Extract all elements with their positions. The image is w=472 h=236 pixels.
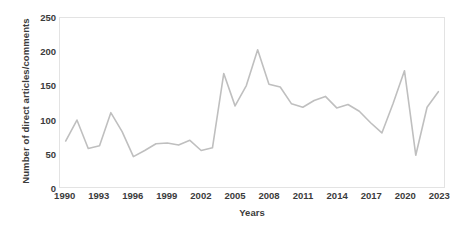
x-tick-label: 1999 <box>156 190 177 201</box>
data-line-series <box>66 50 439 157</box>
x-tick-label: 2011 <box>293 190 314 201</box>
x-tick-label: 2017 <box>361 190 382 201</box>
x-tick-label: 1990 <box>54 190 75 201</box>
y-tick-label: 250 <box>40 12 56 23</box>
chart-figure: Number of direct articles/comments 05010… <box>0 0 472 236</box>
x-axis-tick-labels: 1990199319961999200220052008201120142017… <box>59 190 445 204</box>
x-axis-title: Years <box>59 207 445 218</box>
y-tick-label: 100 <box>40 114 56 125</box>
x-tick-label: 1993 <box>88 190 109 201</box>
line-series-svg <box>60 18 444 187</box>
x-tick-label: 2014 <box>327 190 348 201</box>
x-tick-label: 2020 <box>395 190 416 201</box>
x-tick-label: 2005 <box>224 190 245 201</box>
x-tick-label: 1996 <box>122 190 143 201</box>
y-axis-tick-labels: 050100150200250 <box>26 17 56 188</box>
plot-area <box>59 17 445 188</box>
y-tick-label: 50 <box>45 148 56 159</box>
x-tick-label: 2002 <box>190 190 211 201</box>
x-tick-label: 2008 <box>258 190 279 201</box>
x-tick-label: 2023 <box>429 190 450 201</box>
y-tick-label: 150 <box>40 80 56 91</box>
y-tick-label: 200 <box>40 46 56 57</box>
